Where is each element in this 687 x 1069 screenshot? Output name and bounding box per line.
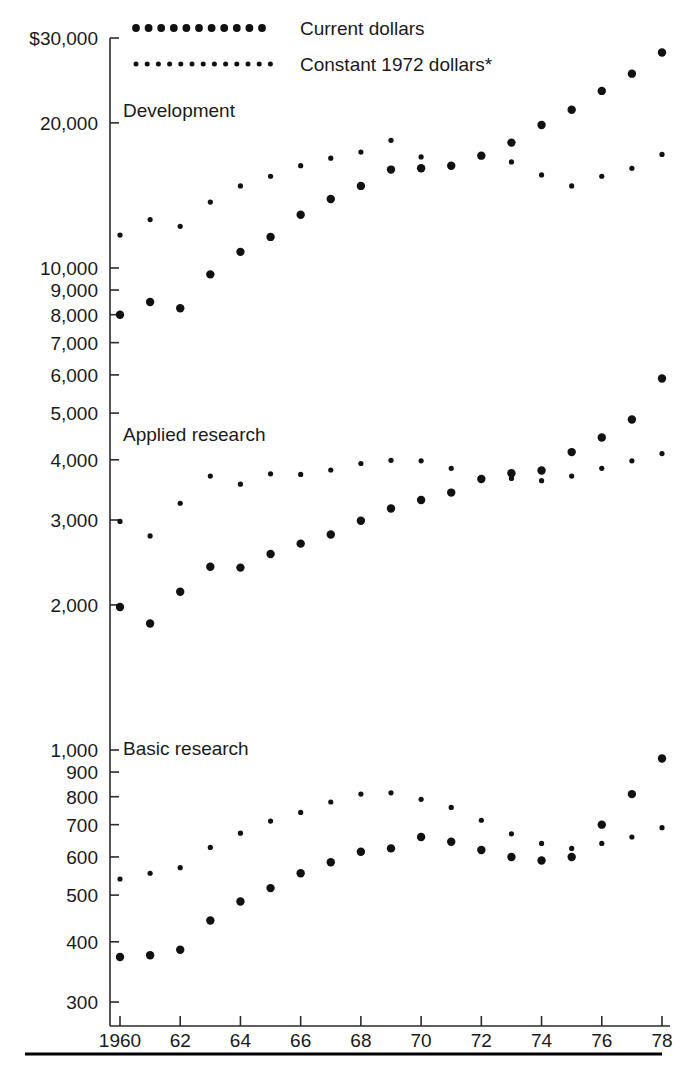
data-point-current <box>146 619 154 627</box>
data-point-current <box>567 448 575 456</box>
data-point-constant <box>328 799 333 804</box>
data-point-current <box>327 530 335 538</box>
data-point-constant <box>599 174 604 179</box>
y-tick-label: 5,000 <box>50 403 98 424</box>
data-point-constant <box>569 846 574 851</box>
data-point-current <box>598 433 606 441</box>
legend-marker-constant-icon <box>134 62 139 67</box>
data-point-current <box>628 69 636 77</box>
x-tick-label: 68 <box>350 1030 371 1051</box>
x-tick-label: 72 <box>471 1030 492 1051</box>
data-point-constant <box>629 834 634 839</box>
legend-label-current: Current dollars <box>300 18 425 39</box>
data-point-constant <box>268 471 273 476</box>
legend-marker-current-icon <box>170 24 178 32</box>
legend-marker-constant-icon <box>201 62 206 67</box>
legend-marker-constant-icon <box>223 62 228 67</box>
data-point-constant <box>659 152 664 157</box>
data-point-current <box>357 848 365 856</box>
data-point-current <box>387 844 395 852</box>
x-tick-label: 66 <box>290 1030 311 1051</box>
y-tick-label: 7,000 <box>50 333 98 354</box>
data-point-constant <box>268 819 273 824</box>
legend-marker-current-icon <box>132 24 140 32</box>
y-tick-label: 500 <box>66 885 98 906</box>
data-point-constant <box>178 865 183 870</box>
panel-label-basic: Basic research <box>123 738 249 759</box>
legend-marker-current-icon <box>246 24 254 32</box>
data-point-current <box>116 310 124 318</box>
chart-figure: 3004005006007008009001,0002,0003,0004,00… <box>0 0 687 1069</box>
data-point-current <box>417 164 425 172</box>
data-point-constant <box>148 217 153 222</box>
data-point-current <box>447 488 455 496</box>
legend-label-constant: Constant 1972 dollars* <box>300 54 493 75</box>
legend-marker-constant-icon <box>212 62 217 67</box>
data-point-constant <box>388 790 393 795</box>
data-point-current <box>327 858 335 866</box>
data-point-constant <box>599 466 604 471</box>
y-tick-label: 2,000 <box>50 595 98 616</box>
data-point-constant <box>449 466 454 471</box>
data-point-constant <box>298 163 303 168</box>
data-point-constant <box>328 467 333 472</box>
legend-marker-current-icon <box>233 24 241 32</box>
legend-marker-current-icon <box>208 24 216 32</box>
y-tick-label: 400 <box>66 932 98 953</box>
chart-background <box>0 0 687 1069</box>
data-point-constant <box>629 458 634 463</box>
data-point-current <box>477 846 485 854</box>
legend-marker-constant-icon <box>234 62 239 67</box>
x-tick-label: 1960 <box>99 1030 141 1051</box>
legend-marker-current-icon <box>183 24 191 32</box>
y-tick-label: 700 <box>66 815 98 836</box>
data-point-current <box>236 897 244 905</box>
data-point-constant <box>238 482 243 487</box>
data-point-constant <box>659 825 664 830</box>
y-tick-label: 10,000 <box>40 258 98 279</box>
y-tick-label: 3,000 <box>50 510 98 531</box>
data-point-current <box>296 210 304 218</box>
data-point-current <box>266 233 274 241</box>
data-point-current <box>357 182 365 190</box>
x-tick-label: 62 <box>170 1030 191 1051</box>
data-point-current <box>296 539 304 547</box>
data-point-constant <box>419 154 424 159</box>
data-point-current <box>537 466 545 474</box>
data-point-constant <box>569 474 574 479</box>
legend-marker-constant-icon <box>145 62 150 67</box>
data-point-constant <box>117 876 122 881</box>
data-point-current <box>116 603 124 611</box>
data-point-current <box>537 856 545 864</box>
data-point-current <box>206 270 214 278</box>
data-point-current <box>266 884 274 892</box>
data-point-current <box>628 415 636 423</box>
data-point-constant <box>117 519 122 524</box>
data-point-constant <box>388 458 393 463</box>
data-point-constant <box>479 476 484 481</box>
data-point-constant <box>449 163 454 168</box>
data-point-current <box>567 106 575 114</box>
research-funding-chart: 3004005006007008009001,0002,0003,0004,00… <box>0 0 687 1069</box>
data-point-constant <box>208 474 213 479</box>
data-point-constant <box>509 831 514 836</box>
legend-marker-constant-icon <box>268 62 273 67</box>
data-point-current <box>236 248 244 256</box>
data-point-current <box>507 138 515 146</box>
data-point-constant <box>358 149 363 154</box>
data-point-current <box>628 790 636 798</box>
data-point-current <box>417 496 425 504</box>
data-point-constant <box>148 533 153 538</box>
data-point-constant <box>569 183 574 188</box>
data-point-constant <box>298 472 303 477</box>
legend-marker-constant-icon <box>246 62 251 67</box>
data-point-constant <box>509 476 514 481</box>
y-tick-label: 300 <box>66 992 98 1013</box>
legend-marker-current-icon <box>145 24 153 32</box>
data-point-current <box>176 588 184 596</box>
data-point-current <box>567 853 575 861</box>
legend-marker-current-icon <box>258 24 266 32</box>
data-point-constant <box>419 458 424 463</box>
y-tick-label: $30,000 <box>29 28 98 49</box>
x-tick-label: 74 <box>531 1030 553 1051</box>
